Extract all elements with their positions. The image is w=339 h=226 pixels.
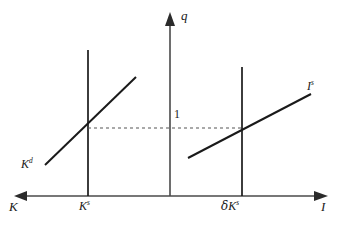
curve-label-investment-supply: Is	[307, 80, 314, 92]
axis-label-investment: I	[321, 200, 325, 213]
curve-label-capital-demand-base: K	[21, 157, 29, 171]
diagram-svg	[0, 0, 339, 226]
up-arrow-icon	[165, 12, 175, 26]
tick-label-depreciation-sup: s	[236, 198, 239, 207]
curve-label-capital-demand: Kd	[21, 158, 33, 170]
curve-label-capital-demand-sup: d	[29, 156, 33, 165]
tick-label-capital-stock: Ks	[79, 200, 90, 212]
axis-label-capital: K	[9, 200, 18, 213]
tick-label-capital-stock-sup: s	[87, 198, 90, 207]
tick-label-depreciation: δKs	[221, 200, 239, 212]
unit-q-label: 1	[174, 108, 180, 120]
curve-capital-demand	[45, 77, 136, 165]
curve-investment-supply	[188, 94, 311, 158]
diagram-canvas: q 1 Kd Is Ks δKs K I	[0, 0, 339, 226]
axis-label-q: q	[181, 9, 188, 22]
tick-label-capital-stock-base: K	[79, 199, 87, 213]
curve-label-investment-supply-sup: s	[311, 78, 314, 87]
